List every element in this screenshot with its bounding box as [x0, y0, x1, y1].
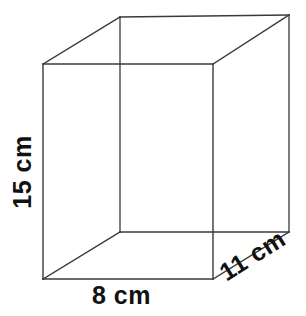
- prism-wireframe: [0, 0, 306, 316]
- back-top-edge: [120, 15, 289, 17]
- height-label: 15 cm: [10, 132, 36, 212]
- depth-edge-top-right: [213, 15, 289, 64]
- prism-figure: 15 cm 8 cm 11 cm: [0, 0, 306, 316]
- back-face-edges: [120, 15, 289, 232]
- width-label: 8 cm: [92, 283, 151, 308]
- front-face-edges: [43, 64, 213, 279]
- depth-edge-top-left: [43, 17, 120, 64]
- depth-edge-bottom-left: [43, 232, 120, 279]
